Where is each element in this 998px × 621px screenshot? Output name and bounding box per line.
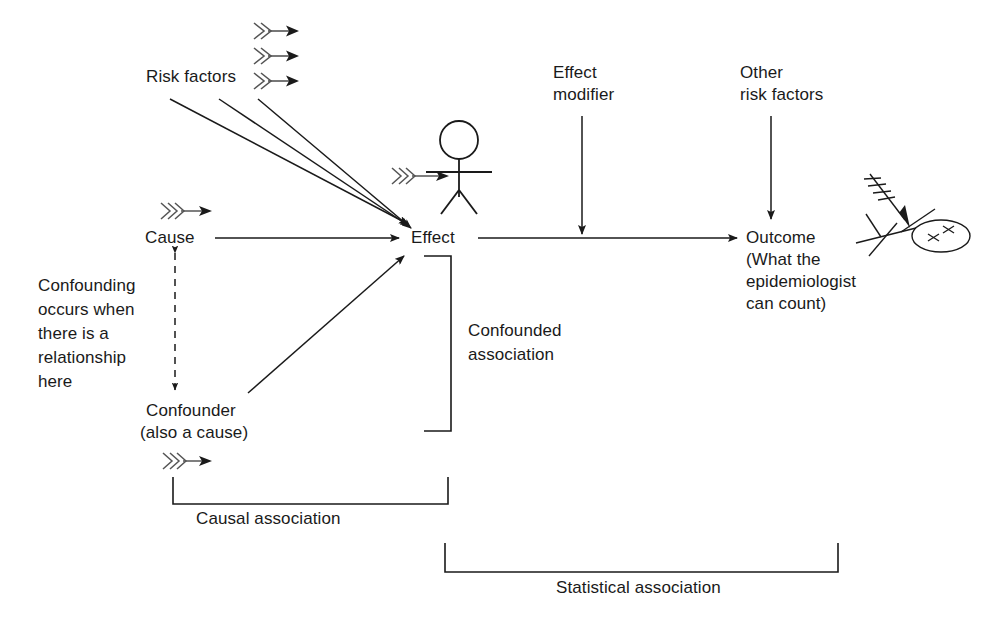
- label-outcome-line4: can count): [746, 293, 826, 315]
- label-outcome-line2: (What the: [746, 249, 821, 271]
- bracket-causal-association: [173, 477, 448, 504]
- label-causal-association: Causal association: [196, 508, 341, 530]
- label-confounder-line2: (also a cause): [140, 422, 248, 444]
- label-other-risk-factors-line1: Other: [740, 62, 783, 84]
- label-outcome-line1: Outcome: [746, 227, 816, 249]
- dart-arrow-outcome-head: [896, 205, 910, 228]
- label-outcome-line3: epidemiologist: [746, 271, 856, 293]
- bracket-confounded-association: [424, 256, 451, 431]
- label-effect-modifier-line1: Effect: [553, 62, 597, 84]
- label-effect: Effect: [411, 227, 455, 249]
- arrow-confounder-to-effect: [248, 256, 404, 393]
- label-effect-modifier-line2: modifier: [553, 84, 614, 106]
- label-cause: Cause: [145, 227, 195, 249]
- arrow-riskfactor-3-to-effect: [258, 99, 411, 228]
- label-other-risk-factors-line2: risk factors: [740, 84, 823, 106]
- note-confounding-line3: there is a: [38, 323, 109, 345]
- note-confounding-line5: here: [38, 371, 72, 393]
- label-confounded-association-line2: association: [468, 344, 554, 366]
- dart-arrow-risk-1: [254, 23, 292, 39]
- dart-arrow-confounder: [163, 453, 205, 469]
- stick-figure-fallen-dead-icon: [856, 209, 970, 256]
- note-confounding-line2: occurs when: [38, 299, 135, 321]
- dart-arrow-risk-3: [254, 73, 292, 89]
- label-confounder-line1: Confounder: [146, 400, 236, 422]
- dart-arrow-person: [392, 168, 442, 184]
- arrow-riskfactor-2-to-effect: [219, 99, 409, 226]
- bracket-statistical-association: [445, 543, 838, 572]
- label-confounded-association-line1: Confounded: [468, 320, 562, 342]
- note-confounding-line1: Confounding: [38, 275, 136, 297]
- label-risk-factors: Risk factors: [146, 66, 236, 88]
- diagram-vector-layer: [0, 0, 998, 621]
- dart-arrow-cause: [161, 203, 205, 219]
- note-confounding-line4: relationship: [38, 347, 126, 369]
- label-statistical-association: Statistical association: [556, 577, 721, 599]
- dart-arrow-outcome: [864, 174, 905, 220]
- dart-arrow-risk-2: [254, 48, 292, 64]
- diagram-canvas: Risk factors Cause Effect Effect modifie…: [0, 0, 998, 621]
- arrow-riskfactor-1-to-effect: [170, 99, 408, 224]
- stick-figure-standing-icon: [426, 121, 492, 214]
